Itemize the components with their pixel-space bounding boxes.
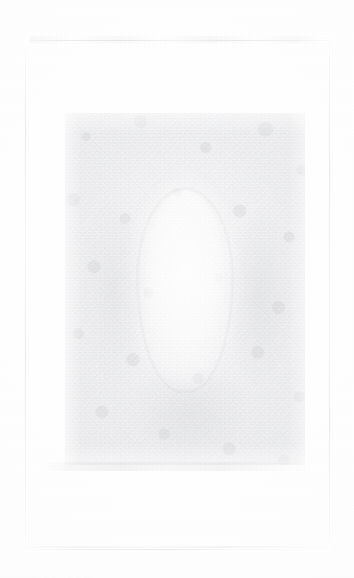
scanned-page <box>0 0 354 578</box>
plate-base-tone <box>65 113 305 465</box>
image-plate <box>65 113 305 465</box>
